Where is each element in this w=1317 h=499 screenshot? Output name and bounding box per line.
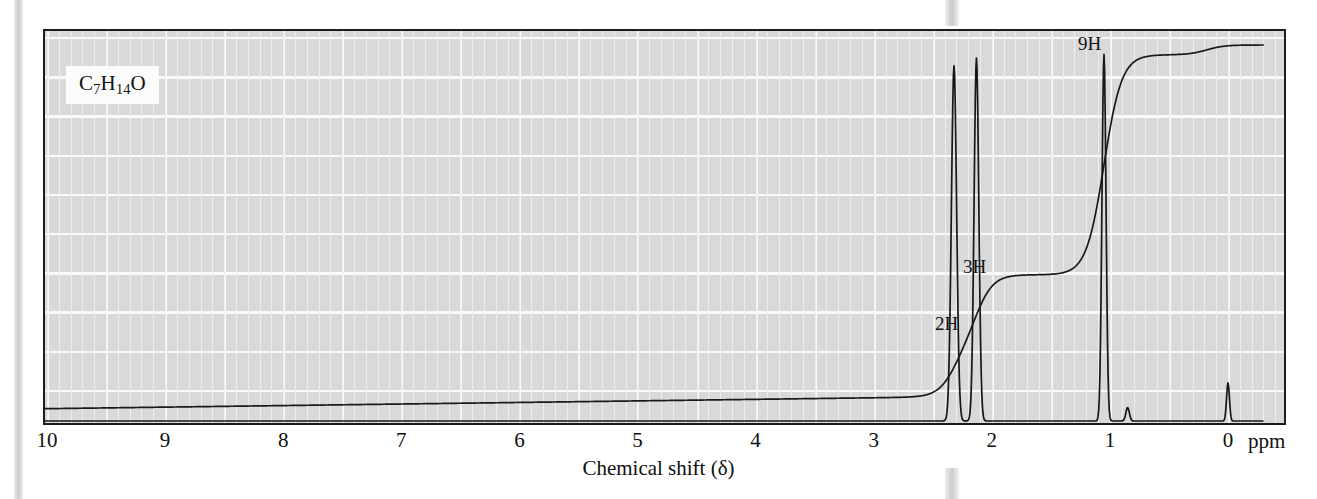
spectrum-curve (45, 54, 1263, 421)
x-tick-8: 8 (278, 428, 289, 453)
x-tick-6: 6 (514, 428, 525, 453)
integration-label-2h: 2H (935, 313, 958, 335)
page-artifact-top (945, 0, 959, 26)
x-tick-3: 3 (868, 428, 879, 453)
x-tick-4: 4 (750, 428, 761, 453)
integration-curve (45, 45, 1263, 409)
spectrum-trace (45, 31, 1284, 423)
x-axis-title: Chemical shift (δ) (0, 456, 1317, 481)
x-tick-5: 5 (632, 428, 643, 453)
page-gutter-artifact-left (14, 0, 23, 499)
nmr-spectrum-figure: C7H14O 9H 3H 2H 109876543210 ppm Chemica… (0, 0, 1317, 499)
x-tick-2: 2 (987, 428, 998, 453)
x-axis-unit-label: ppm (1248, 429, 1285, 454)
integration-label-3h: 3H (963, 256, 986, 278)
x-tick-7: 7 (396, 428, 407, 453)
x-tick-1: 1 (1105, 428, 1116, 453)
molecular-formula-label: C7H14O (66, 66, 159, 104)
spectrum-plot-area (43, 29, 1286, 425)
integration-label-9h: 9H (1078, 33, 1101, 55)
x-tick-10: 10 (37, 428, 58, 453)
x-tick-9: 9 (160, 428, 171, 453)
x-tick-0: 0 (1223, 428, 1234, 453)
